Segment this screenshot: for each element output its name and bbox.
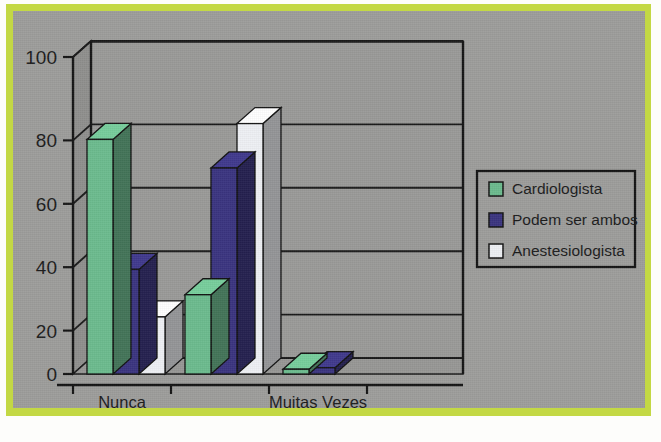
chart-plate: 100 80 60 40 20 0 — [13, 11, 645, 408]
x-tick-labels: Nunca Muitas Vezes — [98, 393, 367, 408]
y-tick-label-60: 60 — [36, 194, 57, 215]
legend-swatch-2 — [489, 244, 503, 258]
bar-cardiologista-cat0 — [87, 123, 131, 374]
y-tick-label-100: 100 — [25, 47, 57, 68]
figure-border: 100 80 60 40 20 0 — [6, 4, 651, 416]
legend-swatch-0 — [489, 182, 503, 196]
legend-swatch-1 — [489, 213, 503, 227]
x-tick-label-nunca: Nunca — [98, 393, 147, 408]
bar-cardiologista-cat1 — [185, 279, 229, 374]
legend-label-2: Anestesiologista — [512, 242, 625, 259]
chart-legend: CardiologistaPodem ser ambosAnestesiolog… — [477, 171, 638, 267]
y-tick-label-0: 0 — [46, 364, 57, 385]
page-root: 100 80 60 40 20 0 — [0, 0, 661, 442]
legend-label-0: Cardiologista — [512, 180, 603, 197]
y-tick-label-40: 40 — [36, 257, 57, 278]
bar-chart: 100 80 60 40 20 0 — [13, 11, 645, 408]
y-tick-labels: 100 80 60 40 20 0 — [25, 47, 57, 385]
legend-label-1: Podem ser ambos — [512, 211, 638, 228]
x-tick-label-muitas-vezes: Muitas Vezes — [269, 393, 367, 408]
y-tick-label-20: 20 — [36, 321, 57, 342]
y-tick-label-80: 80 — [36, 130, 57, 151]
